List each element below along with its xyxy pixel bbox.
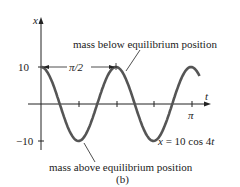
annotation-below: mass below equilibrium position (73, 39, 217, 50)
t-axis-label: t (205, 91, 208, 102)
y-axis-arrow-icon (39, 17, 44, 24)
x-tick-pi: π (188, 110, 194, 121)
caption: (b) (116, 174, 129, 185)
t-axis-arrow-icon (204, 102, 211, 107)
period-label: π/2 (69, 62, 83, 73)
annotation-above: mass above equilibrium position (49, 162, 192, 173)
equation-label: x = 10 cos 4t (158, 136, 214, 147)
y-axis-label: x (33, 15, 38, 26)
y-tick-neg10: −10 (16, 136, 33, 147)
y-tick-10: 10 (18, 62, 29, 73)
oscillation-graph (0, 0, 240, 187)
